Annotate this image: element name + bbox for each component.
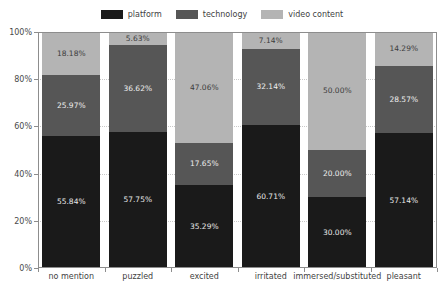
legend-label: video content (288, 11, 343, 19)
bar-value-label: 57.14% (389, 197, 418, 205)
bar-group[interactable]: 57.75%36.62%5.63% (109, 32, 167, 268)
bar-segment[interactable]: 55.84% (42, 136, 100, 268)
bar-value-label: 32.14% (256, 83, 285, 91)
x-axis-tick-label: pleasant (387, 272, 421, 281)
bar-value-label: 28.57% (389, 96, 418, 104)
bar-group[interactable]: 55.84%25.97%18.18% (42, 32, 100, 268)
bar-segment[interactable]: 20.00% (308, 150, 366, 197)
chart-legend: platformtechnologyvideo content (0, 10, 444, 19)
y-axis-tick-label: 60% (14, 122, 32, 131)
bar-value-label: 50.00% (323, 87, 352, 95)
y-axis-tick-label: 80% (14, 75, 32, 84)
bar-segment[interactable]: 7.14% (242, 32, 300, 49)
y-axis-tick-mark (34, 174, 38, 175)
legend-entry[interactable]: technology (176, 10, 247, 19)
x-axis-tick-label: irritated (255, 272, 287, 281)
y-axis-tick-label: 20% (14, 216, 32, 225)
bar-value-label: 18.18% (57, 50, 86, 58)
legend-entry[interactable]: video content (261, 10, 343, 19)
y-axis-tick-label: 100% (9, 28, 32, 37)
legend-swatch-icon (176, 10, 198, 19)
bar-segment[interactable]: 60.71% (242, 125, 300, 268)
x-axis-tick-label: puzzled (122, 272, 153, 281)
y-axis-tick-mark (34, 32, 38, 33)
bar-segment[interactable]: 25.97% (42, 75, 100, 136)
plot-area: 55.84%25.97%18.18%57.75%36.62%5.63%35.29… (38, 32, 437, 268)
bar-segment[interactable]: 35.29% (175, 185, 233, 268)
bar-segment[interactable]: 28.57% (375, 66, 433, 133)
bar-value-label: 55.84% (57, 198, 86, 206)
legend-label: platform (128, 11, 162, 19)
bar-segment[interactable]: 50.00% (308, 32, 366, 150)
legend-swatch-icon (101, 10, 123, 19)
bar-value-label: 25.97% (57, 102, 86, 110)
bar-value-label: 36.62% (123, 85, 152, 93)
bar-group[interactable]: 57.14%28.57%14.29% (375, 32, 433, 268)
y-axis-tick-mark (34, 79, 38, 80)
x-axis-tick-label: excited (190, 272, 219, 281)
bar-segment[interactable]: 14.29% (375, 32, 433, 66)
bar-value-label: 30.00% (323, 229, 352, 237)
bar-value-label: 5.63% (126, 35, 150, 43)
y-axis-tick-mark (34, 221, 38, 222)
legend-label: technology (203, 11, 247, 19)
legend-entry[interactable]: platform (101, 10, 162, 19)
legend-swatch-icon (261, 10, 283, 19)
bar-value-label: 14.29% (389, 45, 418, 53)
bar-segment[interactable]: 47.06% (175, 32, 233, 143)
x-axis-tick-label: immersed/substituted (293, 272, 381, 281)
bar-segment[interactable]: 36.62% (109, 45, 167, 131)
bar-segment[interactable]: 30.00% (308, 197, 366, 268)
bar-group[interactable]: 35.29%17.65%47.06% (175, 32, 233, 268)
x-axis-tick-mark (38, 268, 39, 272)
bar-value-label: 20.00% (323, 170, 352, 178)
bar-value-label: 47.06% (190, 84, 219, 92)
bar-segment[interactable]: 57.75% (109, 132, 167, 268)
bar-segment[interactable]: 17.65% (175, 143, 233, 185)
bar-value-label: 57.75% (123, 196, 152, 204)
y-axis-tick-mark (34, 126, 38, 127)
bar-group[interactable]: 60.71%32.14%7.14% (242, 32, 300, 268)
bar-value-label: 17.65% (190, 160, 219, 168)
bar-value-label: 60.71% (256, 193, 285, 201)
bar-value-label: 7.14% (259, 37, 283, 45)
bar-segment[interactable]: 5.63% (109, 32, 167, 45)
x-axis-tick-mark (371, 268, 372, 272)
y-axis-tick-label: 0% (19, 264, 32, 273)
x-axis-tick-mark (437, 268, 438, 272)
bar-segment[interactable]: 18.18% (42, 32, 100, 75)
bar-group[interactable]: 30.00%20.00%50.00% (308, 32, 366, 268)
x-axis-tick-mark (171, 268, 172, 272)
y-axis-tick-label: 40% (14, 169, 32, 178)
x-axis-tick-mark (105, 268, 106, 272)
bar-value-label: 35.29% (190, 223, 219, 231)
bar-segment[interactable]: 32.14% (242, 49, 300, 125)
x-axis-tick-label: no mention (48, 272, 94, 281)
bar-segment[interactable]: 57.14% (375, 133, 433, 268)
x-axis-tick-mark (238, 268, 239, 272)
